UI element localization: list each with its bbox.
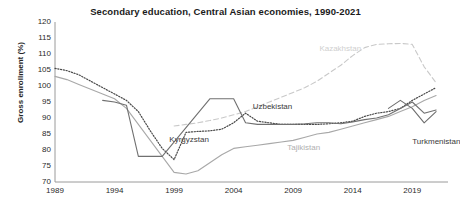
series-label-turkmenistan: Turkmenistan (412, 137, 460, 146)
series-lines (55, 43, 436, 174)
series-line-tajikistan (55, 76, 436, 174)
series-label-kyrgyzstan: Kyrgyzstan (169, 135, 209, 144)
series-label-uzbekistan: Uzbekistan (253, 102, 293, 111)
series-line-kyrgyzstan (55, 68, 436, 159)
series-label-kazakhstan: Kazakhstan (319, 44, 361, 53)
series-label-tajikistan: Tajikistan (287, 143, 320, 152)
